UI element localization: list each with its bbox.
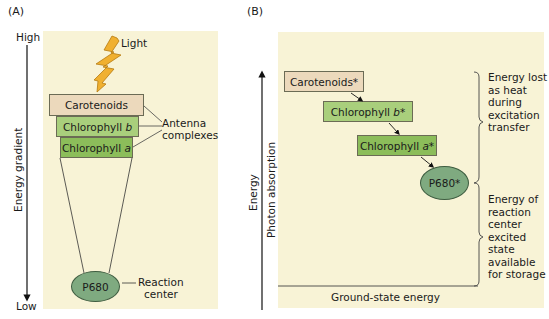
diagram-lines [0, 0, 549, 319]
light-bolt-icon [94, 36, 121, 92]
heat-loss-brace [474, 72, 483, 183]
storage-energy-brace [474, 183, 483, 286]
